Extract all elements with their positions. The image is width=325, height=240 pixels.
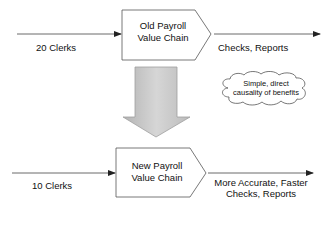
old-input-label: 20 Clerks	[36, 42, 76, 53]
new-output-label-line2: Checks, Reports	[211, 189, 311, 200]
old-chain-label: Old Payroll Value Chain	[128, 20, 198, 43]
new-chain-label-line2: Value Chain	[122, 172, 192, 184]
new-output-label-line1: More Accurate, Faster	[211, 178, 311, 189]
transition-down-arrow	[123, 67, 190, 137]
callout-line2: causality of benefits	[228, 88, 304, 97]
old-output-label: Checks, Reports	[218, 42, 288, 53]
callout-line1: Simple, direct	[228, 79, 304, 88]
old-chain-label-line1: Old Payroll	[128, 20, 198, 32]
new-chain-label: New Payroll Value Chain	[122, 160, 192, 183]
new-input-label: 10 Clerks	[32, 180, 72, 191]
old-chain-label-line2: Value Chain	[128, 32, 198, 44]
new-output-label: More Accurate, Faster Checks, Reports	[211, 178, 311, 199]
new-chain-label-line1: New Payroll	[122, 160, 192, 172]
callout-text: Simple, direct causality of benefits	[228, 79, 304, 97]
